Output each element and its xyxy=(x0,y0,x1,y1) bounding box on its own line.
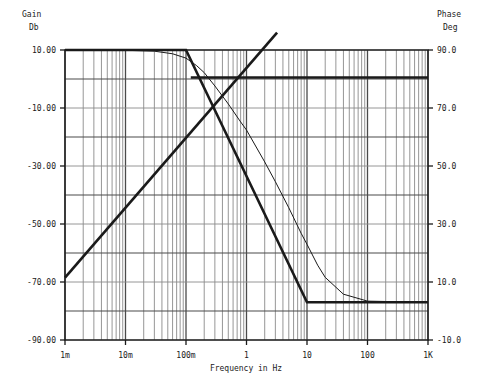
left-tick-label: -10.00 xyxy=(27,104,56,113)
x-tick-label: 10 xyxy=(302,351,312,360)
x-axis-title: Frequency in Hz xyxy=(210,364,282,373)
right-tick-label: 70.0 xyxy=(437,104,456,113)
x-tick-label: 1 xyxy=(244,351,249,360)
right-tick-label: -10.0 xyxy=(437,336,461,345)
x-tick-label: 10m xyxy=(118,351,133,360)
right-tick-label: 30.0 xyxy=(437,220,456,229)
left-tick-label: 10.00 xyxy=(32,46,56,55)
x-tick-label: 1m xyxy=(60,351,70,360)
right-tick-label: 50.0 xyxy=(437,162,456,171)
bode-plot-canvas: Gain Db Phase Deg 10.00-10.00-30.00-50.0… xyxy=(0,0,490,388)
left-tick-label: -90.00 xyxy=(27,336,56,345)
left-tick-label: -50.00 xyxy=(27,220,56,229)
left-axis-name: Gain xyxy=(22,10,41,19)
x-tick-label: 1K xyxy=(423,351,433,360)
left-tick-label: -30.00 xyxy=(27,162,56,171)
right-tick-label: 10.0 xyxy=(437,278,456,287)
right-tick-label: 90.0 xyxy=(437,46,456,55)
left-axis-unit: Db xyxy=(29,23,39,32)
bode-plot-figure: Gain Db Phase Deg 10.00-10.00-30.00-50.0… xyxy=(0,0,490,388)
right-axis-name: Phase xyxy=(437,10,461,19)
x-tick-label: 100m xyxy=(176,351,195,360)
x-tick-label: 100 xyxy=(360,351,375,360)
right-axis-unit: Deg xyxy=(443,23,458,32)
figure-background xyxy=(0,0,490,388)
left-tick-label: -70.00 xyxy=(27,278,56,287)
